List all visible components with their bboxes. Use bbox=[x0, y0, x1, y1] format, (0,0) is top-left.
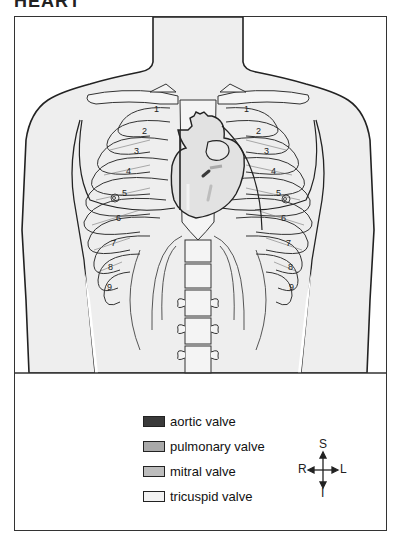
svg-text:2: 2 bbox=[256, 126, 261, 136]
legend-item-mitral: mitral valve bbox=[143, 459, 265, 484]
legend-label: pulmonary valve bbox=[170, 439, 265, 454]
svg-text:4: 4 bbox=[126, 166, 131, 176]
aortic-swatch bbox=[143, 416, 165, 427]
svg-text:8: 8 bbox=[288, 262, 293, 272]
legend-item-tricuspid: tricuspid valve bbox=[143, 484, 265, 509]
svg-text:5: 5 bbox=[122, 188, 127, 198]
compass-left: L bbox=[340, 462, 347, 476]
legend-label: aortic valve bbox=[170, 414, 236, 429]
legend-label: mitral valve bbox=[170, 464, 236, 479]
svg-text:6: 6 bbox=[281, 213, 286, 223]
compass-right: R bbox=[298, 462, 307, 476]
valve-legend: aortic valve pulmonary valve mitral valv… bbox=[143, 409, 265, 509]
svg-text:2: 2 bbox=[142, 126, 147, 136]
svg-text:9: 9 bbox=[107, 282, 112, 292]
svg-text:6: 6 bbox=[116, 213, 121, 223]
svg-text:8: 8 bbox=[108, 262, 113, 272]
svg-text:3: 3 bbox=[264, 146, 269, 156]
tricuspid-swatch bbox=[143, 491, 165, 502]
legend-item-pulmonary: pulmonary valve bbox=[143, 434, 265, 459]
svg-text:4: 4 bbox=[271, 166, 276, 176]
svg-text:1: 1 bbox=[244, 104, 249, 114]
svg-text:9: 9 bbox=[289, 282, 294, 292]
svg-text:7: 7 bbox=[111, 238, 116, 248]
svg-text:5: 5 bbox=[276, 188, 281, 198]
pulmonary-swatch bbox=[143, 441, 165, 452]
legend-item-aortic: aortic valve bbox=[143, 409, 265, 434]
compass-inferior: I bbox=[321, 486, 324, 500]
mitral-swatch bbox=[143, 466, 165, 477]
orientation-compass: S I R L bbox=[300, 440, 350, 500]
pulmonary-valve-mark bbox=[210, 166, 222, 168]
svg-text:1: 1 bbox=[154, 104, 159, 114]
compass-superior: S bbox=[319, 437, 327, 451]
legend-label: tricuspid valve bbox=[170, 489, 252, 504]
svg-text:7: 7 bbox=[286, 238, 291, 248]
svg-text:3: 3 bbox=[134, 146, 139, 156]
